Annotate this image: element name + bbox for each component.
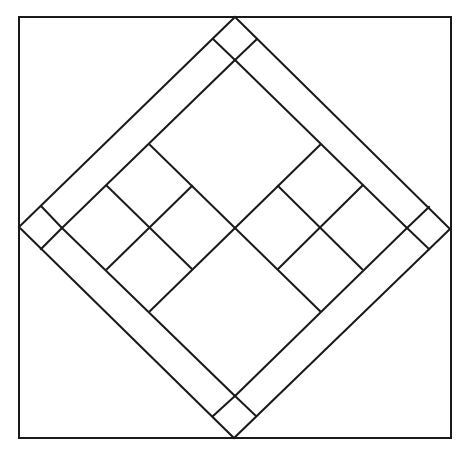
corner-square-top-right-edge — [235, 39, 257, 60]
corner-square-left-bottom-edge — [41, 228, 62, 249]
corner-square-right-top-edge — [407, 207, 429, 228]
corner-square-bottom-right-edge — [235, 396, 256, 416]
quilt-block-diagram — [0, 0, 471, 458]
quilt-block-svg — [0, 0, 471, 458]
corner-square-left-top-edge — [41, 206, 62, 228]
corner-square-top-left-edge — [213, 39, 235, 60]
corner-square-bottom-left-edge — [213, 396, 235, 416]
corner-square-right-bottom-edge — [407, 228, 429, 249]
